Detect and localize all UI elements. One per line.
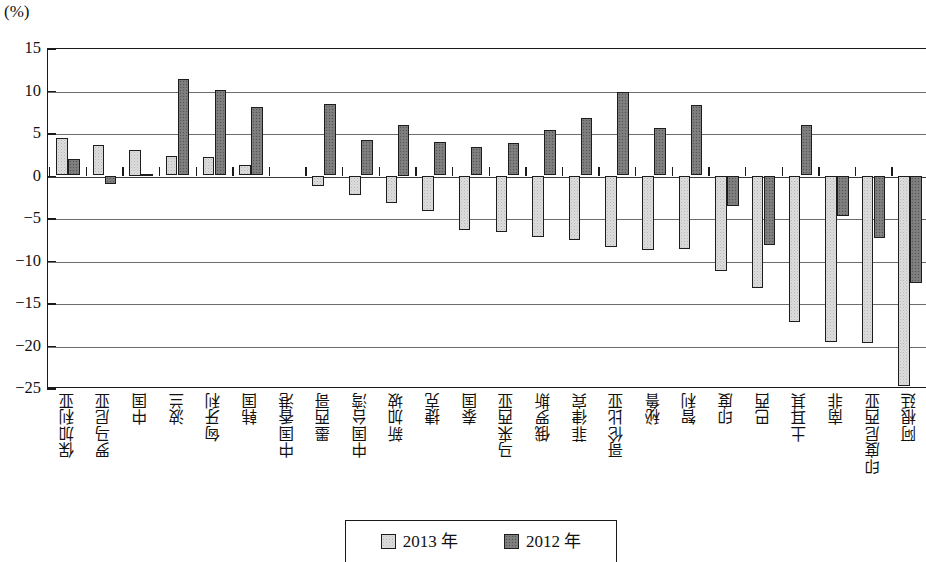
x-axis-tick-mark [489,167,490,176]
x-axis-tick-mark [855,167,856,176]
x-axis-category-label: 墨西哥 [316,392,332,442]
bar [349,176,361,196]
bar [544,130,556,175]
bar [215,90,227,176]
bar [874,176,886,239]
bar [93,145,105,176]
x-axis-tick-mark [122,167,123,176]
x-axis-category-label: 中国台湾 [353,392,369,458]
bar [569,176,581,241]
x-axis-category-label: 印度 [719,392,735,425]
bar [203,157,215,176]
bar [166,156,178,176]
bar [898,176,910,387]
x-axis-tick-mark [708,167,709,176]
legend-swatch [381,534,396,549]
bar [496,176,508,232]
bar [386,176,398,203]
bar [324,104,336,175]
legend-label: 2012 年 [526,533,581,550]
x-axis-category-label: 新加坡 [389,392,405,442]
bar [789,176,801,322]
legend: 2013 年2012 年 [345,520,617,562]
x-axis-category-label: 秘鲁 [646,392,662,425]
bars-layer [47,48,926,388]
bar [617,92,629,175]
bar [105,176,117,185]
x-axis-tick-mark [782,167,783,176]
x-axis-category-label: 智利 [682,392,698,425]
x-axis-tick-mark [891,167,892,176]
x-axis-category-label: 哥伦比亚 [609,392,625,458]
x-axis-tick-mark [159,167,160,176]
y-axis-tick-label: −15 [0,295,41,312]
y-axis-tick-label: −10 [0,253,41,270]
bar [251,107,263,176]
bar [679,176,691,250]
bar [239,165,251,175]
x-axis-category-label: 罗马尼亚 [96,392,112,458]
bar [605,176,617,247]
bar [129,150,141,176]
bar [508,143,520,175]
bar [434,142,446,175]
bar [361,140,373,176]
x-axis-tick-mark [818,167,819,176]
bar [764,176,776,246]
x-axis-tick-mark [305,167,306,176]
bar-chart: (%) 151050−5−10−15−20−25 保加利亚罗马尼亚中国波兰匈牙利… [0,0,926,562]
y-axis-tick-label: −25 [0,380,41,397]
bar [532,176,544,237]
x-axis-category-label: 泰国 [463,392,479,425]
x-axis-tick-mark [196,167,197,176]
x-axis-tick-mark [269,167,270,176]
x-axis-category-label: 匈牙利 [206,392,222,442]
bar [56,138,68,175]
bar [312,176,324,186]
x-axis-category-label: 中国 [133,392,149,425]
bar [471,147,483,175]
x-axis-tick-mark [598,167,599,176]
x-axis-tick-mark [672,167,673,176]
bar [691,105,703,176]
x-axis-category-label: 阿根廷 [902,392,918,442]
bar [727,176,739,207]
bar [581,118,593,176]
x-axis-tick-mark [49,167,50,176]
x-axis-tick-mark [635,167,636,176]
bar [715,176,727,271]
bar [68,159,80,175]
x-axis-category-label: 印度尼西亚 [866,392,882,475]
bar [642,176,654,251]
x-axis-category-label: 巴西 [756,392,772,425]
legend-swatch [504,534,519,549]
y-axis-tick-label: 10 [0,83,41,100]
x-axis-tick-mark [379,167,380,176]
x-axis-category-labels: 保加利亚罗马尼亚中国波兰匈牙利韩国中国香港墨西哥中国台湾新加坡捷克泰国马来西亚俄… [47,392,926,517]
x-axis-tick-mark [232,167,233,176]
x-axis-tick-mark [745,167,746,176]
bar [422,176,434,212]
bar [801,125,813,175]
x-axis-category-label: 马来西亚 [499,392,515,458]
x-axis-category-label: 中国香港 [280,392,296,458]
bar [654,128,666,176]
bar [910,176,922,283]
bar [752,176,764,288]
x-axis-category-label: 韩国 [243,392,259,425]
bar [178,79,190,176]
y-axis-tick-label: −5 [0,210,41,227]
x-axis-category-label: 捷克 [426,392,442,425]
x-axis-category-label: 南非 [829,392,845,425]
x-axis-tick-mark [86,167,87,176]
x-axis-tick-mark [415,167,416,176]
bar [141,174,153,176]
x-axis-category-label: 土耳其 [792,392,808,442]
y-axis-tick-label: 5 [0,125,41,142]
y-axis-tick-label: 15 [0,40,41,57]
x-axis-tick-mark [525,167,526,176]
bar [459,176,471,230]
x-axis-category-label: 波兰 [170,392,186,425]
x-axis-tick-mark [452,167,453,176]
x-axis-tick-mark [342,167,343,176]
